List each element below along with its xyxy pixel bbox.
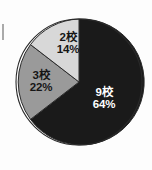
pie-chart-figure: 9校 64% 3校 22% 2校 14%	[0, 0, 152, 170]
page-edge-artifact	[2, 24, 4, 40]
cropped-caption-text	[3, 163, 123, 170]
pie-chart-svg	[0, 0, 152, 170]
